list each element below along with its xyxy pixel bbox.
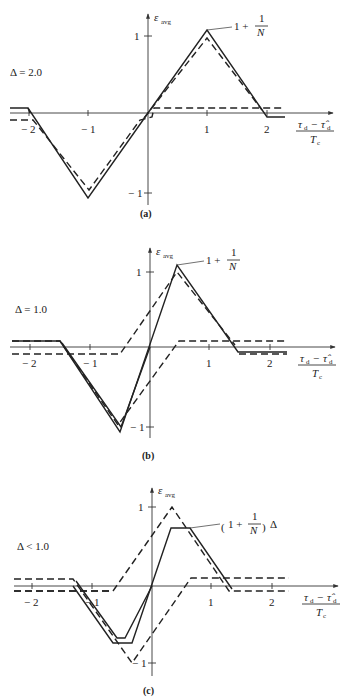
curve-solid-inner [28,108,30,113]
svg-text:c: c [317,139,320,147]
xtick-label: 1 [204,123,210,135]
svg-text:1 +: 1 + [234,20,248,32]
svg-text:N: N [249,524,258,536]
x-axis-label: τ d − τ̂ d T c [298,352,336,381]
panel-c: − 2 − 1 1 2 1 − 1 ε avg τ d − τ̂ d T c (… [14,484,340,697]
svg-text:τ: τ [304,591,309,603]
svg-text:1: 1 [259,12,265,24]
svg-text:(: ( [221,521,225,534]
ytick-label: 1 [136,266,142,278]
y-axis-label-sub: avg [161,18,172,26]
figure-canvas: − 2 − 1 1 2 1 − 1 ε avg τ d − τ̂ d T c 1… [0,0,346,697]
svg-text:T: T [316,606,323,618]
svg-text:τ: τ [300,352,305,364]
curve-dashed [10,108,285,190]
svg-text:1 +: 1 + [228,518,242,530]
xtick-label: − 2 [22,357,36,369]
condition-label: Δ = 1.0 [15,303,47,315]
svg-text:): ) [262,521,266,534]
y-axis-label-sub: avg [163,252,174,260]
panel-a: − 2 − 1 1 2 1 − 1 ε avg τ d − τ̂ d T c 1… [10,11,334,220]
y-axis-label-sub: avg [165,491,176,499]
svg-text:1 +: 1 + [206,254,220,266]
svg-text:T: T [310,133,317,145]
caption-a: (a) [140,208,152,220]
x-axis-label: τ d − τ̂ d T c [296,118,334,147]
curve-solid-2 [62,343,150,427]
svg-text:c: c [323,612,326,620]
annotation-leader [207,27,232,30]
curve-dashed-2 [144,38,262,118]
x-axis-label: τ d − τ̂ d T c [302,591,340,620]
svg-text:N: N [256,26,265,38]
y-axis-label: ε [156,245,161,257]
svg-text:1: 1 [252,510,258,522]
svg-text:−: − [313,352,319,364]
xtick-label: 1 [206,357,212,369]
ytick-label: − 1 [130,421,144,433]
annotation-c: ( 1 + 1 N ) Δ [221,510,277,536]
annotation-leader [190,524,220,528]
panel-b: − 2 − 1 1 2 1 − 1 ε avg τ d − τ̂ d T c 1… [10,245,336,462]
ytick-label: 1 [138,501,144,513]
curve-solid [73,528,232,643]
svg-text:1: 1 [231,246,237,258]
svg-text:τ: τ [298,118,303,130]
caption-c: (c) [143,685,154,697]
xtick-label: − 1 [81,123,95,135]
xtick-label: − 2 [21,123,35,135]
y-axis-label: ε [154,11,159,23]
svg-text:−: − [317,591,323,603]
condition-label: Δ < 1.0 [17,540,49,552]
annotation-a: 1 + 1 N [234,12,268,38]
condition-label: Δ = 2.0 [10,66,42,78]
xtick-label: 1 [208,596,214,608]
svg-text:N: N [228,260,237,272]
xtick-label: − 2 [24,596,38,608]
svg-text:c: c [319,373,322,381]
ytick-label: − 1 [128,187,142,199]
svg-text:−: − [311,118,317,130]
y-axis-label: ε [158,484,163,496]
ytick-label: 1 [134,30,140,42]
svg-text:Δ: Δ [270,518,277,530]
annotation-leader [177,261,204,265]
xtick-label: 2 [267,357,273,369]
annotation-b: 1 + 1 N [206,246,240,272]
xtick-label: 2 [264,123,270,135]
xtick-label: 2 [269,596,275,608]
xtick-label: − 1 [83,357,97,369]
svg-text:T: T [312,367,319,379]
caption-b: (b) [142,450,154,462]
